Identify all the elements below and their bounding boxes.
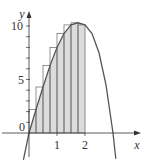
y-axis-arrow-icon (27, 11, 32, 18)
riemann-sum-chart: yx051012 (0, 0, 147, 161)
x-tick-label-2: 2 (82, 138, 88, 152)
y-tick-label-5: 5 (18, 73, 24, 87)
y-tick-label-0: 0 (19, 120, 25, 134)
x-tick-label-1: 1 (54, 138, 60, 152)
x-axis-arrow-icon (134, 131, 141, 136)
chart-canvas: yx051012 (0, 0, 147, 161)
x-axis-label: x (133, 138, 140, 152)
y-tick-label-10: 10 (11, 19, 23, 33)
